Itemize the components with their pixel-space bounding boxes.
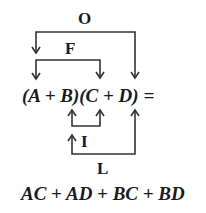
- expression: (A + B)(C + D) =: [22, 86, 154, 105]
- connector-lines: [0, 0, 206, 213]
- outer-label: O: [78, 10, 91, 27]
- outer-bracket: [32, 32, 139, 78]
- first-bracket: [32, 60, 104, 79]
- first-label: F: [65, 40, 75, 57]
- last-bracket: [68, 110, 139, 154]
- inner-bracket: [68, 110, 104, 126]
- foil-diagram: O F I L (A + B)(C + D) = AC + AD + BC + …: [0, 0, 206, 213]
- inner-label: I: [81, 133, 88, 150]
- last-label: L: [97, 160, 108, 177]
- result-expression: AC + AD + BC + BD: [21, 184, 185, 203]
